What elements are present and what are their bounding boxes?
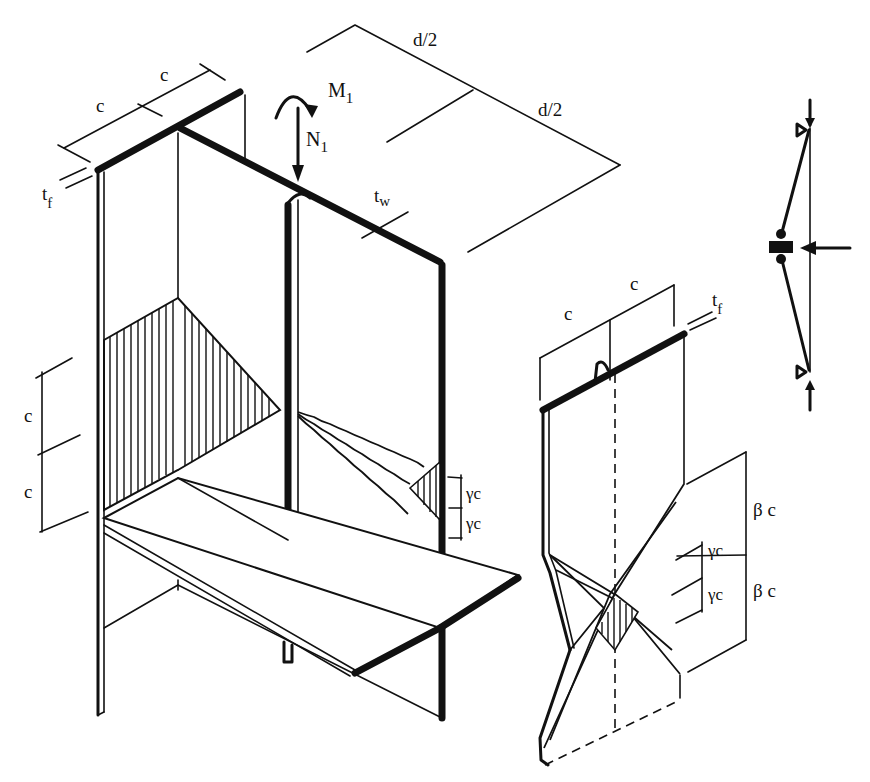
detail-label-c-left: c (564, 303, 572, 324)
yield-line-3 (298, 416, 408, 514)
plate-front-edge-left (355, 628, 440, 673)
moment-arrowhead-icon (304, 104, 318, 118)
label-left-c-lower: c (24, 481, 32, 502)
detail-label-c-right: c (630, 273, 638, 294)
hinge-icon (776, 229, 786, 239)
label-top-c-left: c (96, 95, 104, 116)
label-d-half-upper: d/2 (413, 29, 437, 50)
bottom-load-arrow-icon (805, 380, 815, 390)
beam-flange-plate (104, 478, 518, 628)
web-stub (284, 642, 292, 662)
detail-label-tf: tf (712, 289, 722, 317)
front-flange-top (288, 194, 310, 203)
plastic-hinge-block (769, 241, 793, 253)
dim-top-c (64, 70, 210, 148)
label-left-c-upper: c (24, 405, 32, 426)
flange-detail (540, 285, 746, 765)
label-gamma-c-upper: γc (465, 484, 482, 503)
yield-line-2 (298, 414, 410, 484)
detail-label-beta-c-upper: β c (753, 499, 776, 520)
detail-label-beta-c-lower: β c (753, 580, 776, 601)
label-axial: N1 (306, 128, 328, 155)
label-tw: tw (374, 185, 390, 209)
label-d-half-lower: d/2 (538, 99, 562, 120)
label-moment: M1 (328, 79, 353, 106)
bottom-support-icon (797, 366, 806, 378)
label-top-c-right: c (160, 64, 168, 85)
axial-arrowhead-icon (292, 165, 304, 182)
label-tf: tf (42, 183, 52, 211)
top-load-arrow-icon (805, 118, 815, 128)
diagram-canvas: c c tf M1 N1 tw d/2 d/2 c c γc γc (0, 0, 870, 782)
main-joint (36, 25, 620, 718)
yield-line-1 (298, 412, 424, 467)
back-flange-top (98, 92, 240, 170)
lateral-load-arrow-icon (800, 241, 816, 255)
mechanism-sketch (769, 100, 850, 410)
label-gamma-c-lower: γc (465, 514, 482, 533)
detail-label-gamma-c-lower: γc (707, 585, 724, 604)
top-support-icon (797, 124, 806, 136)
detail-label-gamma-c-upper: γc (707, 541, 724, 560)
moment-arrow-arc (276, 97, 310, 118)
